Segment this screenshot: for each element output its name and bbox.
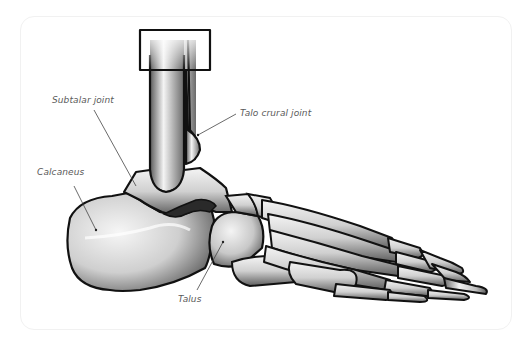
label-subtalar-joint: Subtalar joint [52,95,114,105]
leader-talo-crural [198,114,236,135]
leader-subtalar [94,110,136,186]
label-talus: Talus [178,294,201,304]
label-talo-crural-joint: Talo crural joint [240,108,311,118]
label-calcaneus: Calcaneus [37,167,84,177]
